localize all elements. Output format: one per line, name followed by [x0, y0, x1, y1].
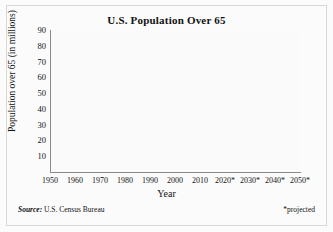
plot-area — [50, 30, 300, 172]
plot-background — [50, 30, 300, 172]
projected-footnote: *projected — [283, 205, 315, 214]
source-note: Source: U.S. Census Bureau — [18, 205, 104, 214]
y-axis-line — [50, 30, 51, 173]
source-value: U.S. Census Bureau — [44, 205, 104, 214]
x-axis-title: Year — [0, 188, 333, 199]
x-axis-line — [50, 172, 301, 173]
y-axis-title: Population over 65 (in millions) — [7, 0, 17, 151]
source-label: Source: — [18, 205, 42, 214]
chart-figure: U.S. Population Over 65 1020304050607080… — [0, 0, 333, 232]
chart-title: U.S. Population Over 65 — [0, 14, 333, 26]
